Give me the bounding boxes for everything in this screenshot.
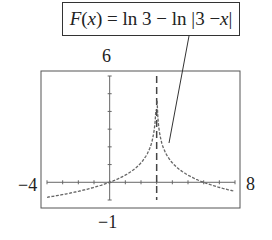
plot-frame: [41, 71, 240, 208]
ymin-label: −1: [98, 212, 117, 233]
xmin-label: −4: [18, 175, 37, 196]
ymax-label: 6: [102, 46, 111, 67]
plot-svg: [0, 0, 272, 240]
xmax-label: 8: [246, 174, 255, 195]
callout-line: [169, 36, 189, 143]
axes: [47, 76, 235, 200]
